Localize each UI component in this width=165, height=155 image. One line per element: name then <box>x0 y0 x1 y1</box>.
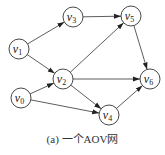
edge-v2-to-v4 <box>71 85 101 109</box>
node-v5: v5 <box>121 6 141 26</box>
edge-v2-to-v5 <box>70 23 123 72</box>
edge-v0-to-v4 <box>31 100 99 113</box>
node-v0: v0 <box>11 88 31 108</box>
edge-v5-to-v6 <box>134 26 147 70</box>
node-v2: v2 <box>53 69 73 89</box>
edge-v3-to-v5 <box>83 16 121 17</box>
node-v1: v1 <box>9 39 29 59</box>
nodes-group: v0v1v2v3v4v5v6 <box>9 6 160 125</box>
edges-group <box>27 16 147 113</box>
node-v4: v4 <box>99 105 119 125</box>
node-v6: v6 <box>140 69 160 89</box>
edge-v1-to-v2 <box>27 55 54 74</box>
figure-caption: (a) 一个AOV网 <box>0 130 165 146</box>
edge-v1-to-v3 <box>28 22 65 44</box>
node-v3: v3 <box>63 7 83 27</box>
edge-v4-to-v6 <box>117 86 143 109</box>
edge-v0-to-v2 <box>30 83 54 94</box>
